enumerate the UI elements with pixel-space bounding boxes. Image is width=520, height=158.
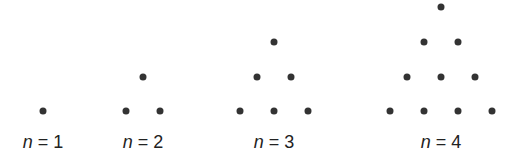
dot xyxy=(455,39,462,46)
figure-label: n = 3 xyxy=(254,132,295,153)
triangular-numbers-diagram: n = 1n = 2n = 3n = 4 xyxy=(0,0,520,158)
dot xyxy=(421,108,428,115)
label-variable: n xyxy=(421,132,431,152)
label-equation: = 1 xyxy=(33,132,64,152)
dot xyxy=(404,74,411,81)
dot xyxy=(305,108,312,115)
dot xyxy=(421,39,428,46)
label-equation: = 4 xyxy=(431,132,462,152)
dot xyxy=(123,108,130,115)
figure-label: n = 4 xyxy=(421,132,462,153)
dot xyxy=(472,74,479,81)
figure-label: n = 2 xyxy=(123,132,164,153)
dot xyxy=(140,74,147,81)
dot xyxy=(288,74,295,81)
dot xyxy=(271,108,278,115)
label-variable: n xyxy=(23,132,33,152)
dot xyxy=(438,4,445,11)
dot xyxy=(387,108,394,115)
dot xyxy=(237,108,244,115)
dot xyxy=(438,74,445,81)
dot xyxy=(271,39,278,46)
label-variable: n xyxy=(123,132,133,152)
dot xyxy=(489,108,496,115)
dot xyxy=(455,108,462,115)
label-equation: = 3 xyxy=(264,132,295,152)
figure-label: n = 1 xyxy=(23,132,64,153)
label-variable: n xyxy=(254,132,264,152)
dot xyxy=(40,108,47,115)
label-equation: = 2 xyxy=(133,132,164,152)
dot xyxy=(157,108,164,115)
dot xyxy=(254,74,261,81)
